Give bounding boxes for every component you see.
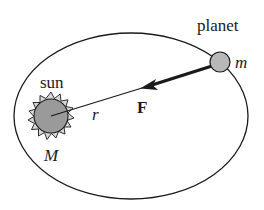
planet-label: planet [197, 16, 239, 35]
planet-body [210, 52, 230, 72]
sun-mass-label: M [43, 146, 59, 165]
orbit-diagram: planet m sun M r F [0, 0, 264, 210]
sun-label: sun [40, 73, 64, 92]
force-vector-shaft [152, 66, 212, 85]
distance-label: r [92, 105, 99, 124]
planet-mass-label: m [235, 53, 247, 72]
force-label: F [137, 98, 147, 117]
